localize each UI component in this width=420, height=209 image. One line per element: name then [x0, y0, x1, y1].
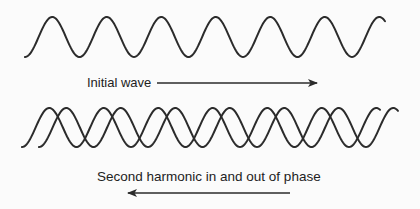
second-harmonic-label: Second harmonic in and out of phase — [97, 170, 321, 184]
harmonic-wave-a-curve — [22, 108, 380, 147]
initial-wave-curve — [25, 17, 385, 57]
harmonic-wave-diagram: Initial wave Second harmonic in and out … — [0, 0, 420, 209]
initial-wave-label: Initial wave — [87, 76, 151, 89]
